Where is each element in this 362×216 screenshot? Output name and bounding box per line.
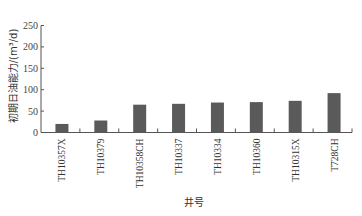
y-tick-label: 100	[23, 84, 38, 95]
x-category-label: TH10358CH	[135, 138, 145, 188]
bar-T728CH	[328, 93, 341, 132]
bar-TH10358CH	[133, 105, 146, 133]
y-tick-label: 0	[33, 127, 38, 138]
x-axis-title: 井号	[184, 196, 204, 208]
y-tick-label: 150	[23, 63, 38, 74]
category-labels: TH10357XTH10379TH10358CHTH10337TH10334TH…	[57, 138, 339, 188]
y-tick-label: 250	[23, 20, 38, 31]
x-category-label: TH10360	[252, 138, 262, 175]
bar-TH10379	[94, 121, 107, 133]
y-axis: 050100150200250	[23, 20, 44, 138]
x-category-label: TH10379	[96, 138, 106, 175]
bar-TH10315X	[289, 101, 302, 133]
bar-TH10357X	[55, 124, 68, 133]
x-category-label: TH10337	[174, 138, 184, 175]
bar-TH10334	[211, 103, 224, 133]
y-axis-title: 初期日油能力/(m³/d)	[7, 29, 19, 124]
bar-chart: 050100150200250 TH10357XTH10379TH10358CH…	[0, 0, 362, 216]
y-tick-label: 50	[28, 106, 38, 117]
bars	[55, 93, 340, 132]
x-axis	[41, 129, 352, 133]
bar-TH10337	[172, 104, 185, 133]
y-tick-label: 200	[23, 41, 38, 52]
x-category-label: TH10357X	[57, 138, 67, 181]
bar-TH10360	[250, 102, 263, 132]
x-category-label: TH10334	[213, 138, 223, 175]
x-category-label: T728CH	[330, 138, 340, 171]
x-category-label: TH10315X	[291, 138, 301, 181]
